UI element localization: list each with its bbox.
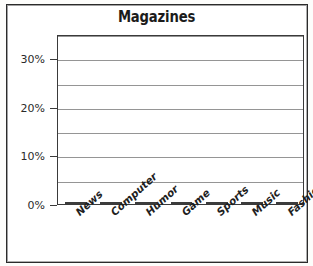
bar	[276, 83, 298, 204]
chart-page: Magazines 0%10%20%30% NewsComputerHumorG…	[0, 0, 313, 266]
plot-area	[57, 35, 304, 205]
bar	[206, 95, 228, 204]
y-axis-tick	[50, 205, 57, 206]
y-axis-label: 0%	[1, 199, 45, 212]
y-axis-tick	[50, 108, 57, 109]
chart-title: Magazines	[19, 8, 294, 26]
y-axis-tick	[50, 156, 57, 157]
y-axis-label: 20%	[1, 101, 45, 114]
y-axis-label: 30%	[1, 53, 45, 66]
y-axis-tick	[50, 59, 57, 60]
bar-series	[58, 36, 303, 204]
y-axis-label: 10%	[1, 150, 45, 163]
